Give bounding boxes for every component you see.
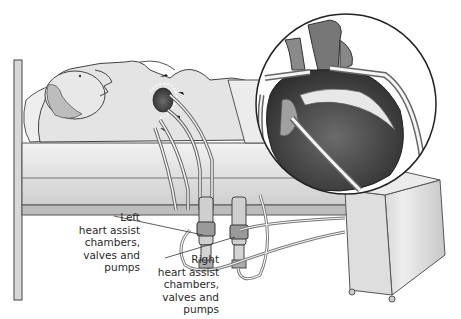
label-right-heart-assist: Right heart assist chambers, valves and … <box>127 253 219 316</box>
heart-inset <box>256 14 436 194</box>
right-pump <box>230 197 248 268</box>
